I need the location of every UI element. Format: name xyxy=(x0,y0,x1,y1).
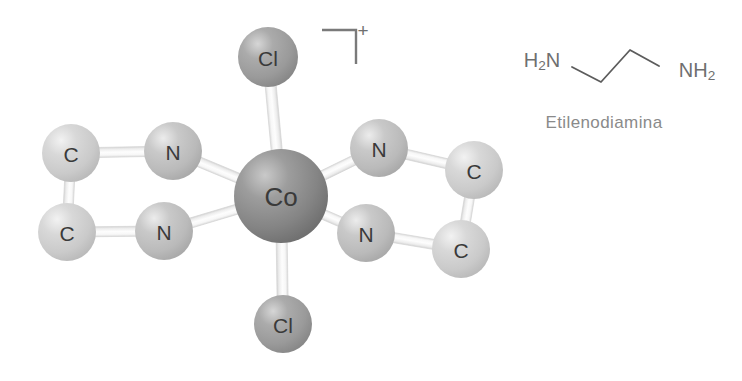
atom-co-center: Co xyxy=(234,149,328,243)
atom-cl-bottom: Cl xyxy=(254,295,312,353)
charge-bracket-group: + xyxy=(322,20,369,65)
atom-n-right-top: N xyxy=(350,119,408,177)
figure-canvas: ClClCoNNCCNNCC + H2​N NH2​ Etilenodiamin… xyxy=(0,0,742,381)
atom-layer: ClClCoNNCCNNCC xyxy=(38,27,503,353)
charge-sign: + xyxy=(357,20,368,41)
atom-label-n-right-top: N xyxy=(371,138,386,161)
atom-label-c-left-top: C xyxy=(63,143,78,166)
atom-label-c-right-bottom: C xyxy=(453,239,468,262)
atom-label-n-left-bottom: N xyxy=(156,221,171,244)
atom-n-right-bottom: N xyxy=(337,204,395,262)
atom-c-left-top: C xyxy=(42,124,100,182)
ligand-caption: Etilenodiamina xyxy=(545,113,662,132)
atom-n-left-bottom: N xyxy=(135,202,193,260)
atom-n-left-top: N xyxy=(144,122,202,180)
atom-label-n-left-top: N xyxy=(165,141,180,164)
ethylenediamine-group: H2​N NH2​ Etilenodiamina xyxy=(524,49,715,132)
atom-label-c-right-top: C xyxy=(466,160,481,183)
atom-c-right-bottom: C xyxy=(432,220,490,278)
ligand-bond-chain xyxy=(572,50,659,82)
charge-bracket xyxy=(322,30,356,64)
molecule-illustration: ClClCoNNCCNNCC + H2​N NH2​ Etilenodiamin… xyxy=(0,0,742,381)
amine-label-left: H2​N xyxy=(524,49,560,73)
atom-c-right-top: C xyxy=(445,141,503,199)
atom-label-c-left-bottom: C xyxy=(59,222,74,245)
amine-label-right: NH2​ xyxy=(679,59,715,83)
atom-label-cl-top: Cl xyxy=(258,47,278,70)
atom-c-left-bottom: C xyxy=(38,203,96,261)
atom-label-n-right-bottom: N xyxy=(358,223,373,246)
atom-label-co-center: Co xyxy=(264,182,297,212)
atom-label-cl-bottom: Cl xyxy=(273,314,293,337)
atom-cl-top: Cl xyxy=(238,27,298,87)
